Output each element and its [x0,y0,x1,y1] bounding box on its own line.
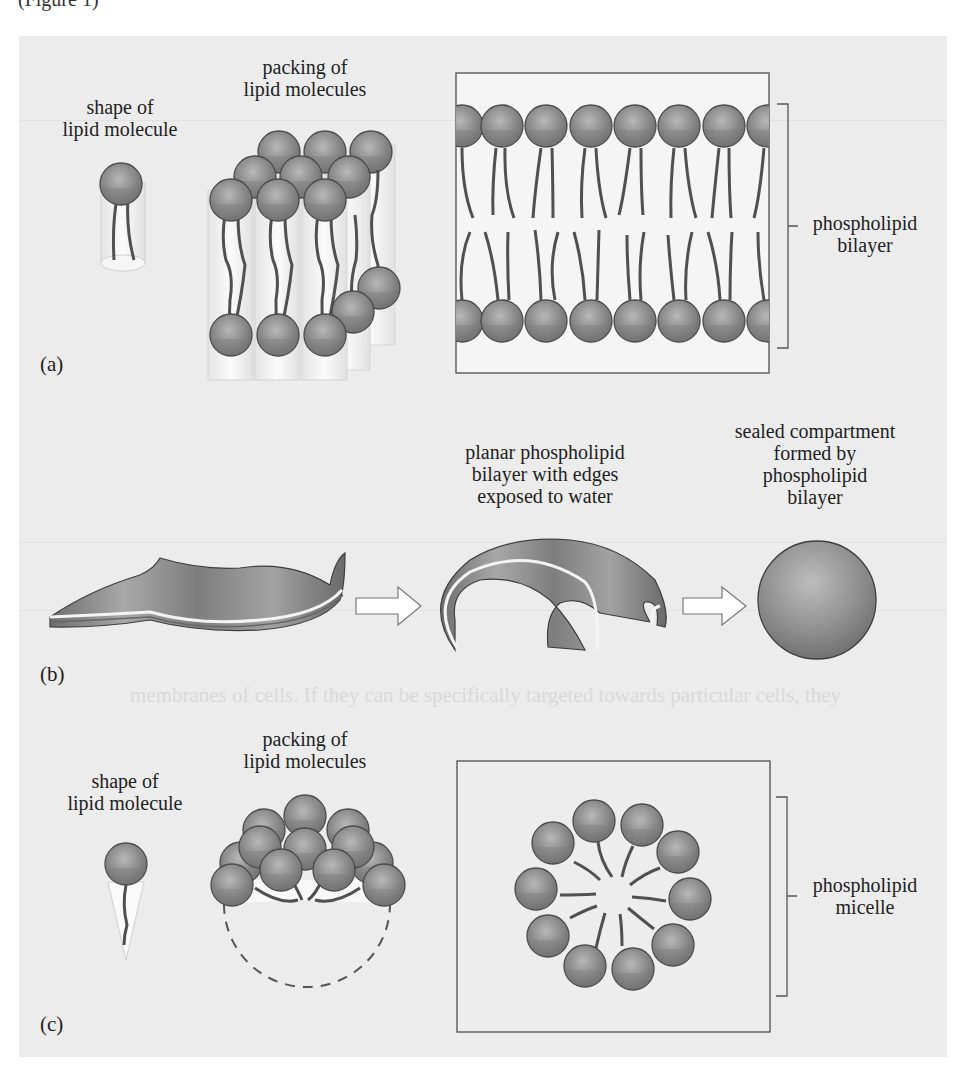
curved-bilayer-sheet [441,539,667,650]
lipid-cone-packing [211,795,405,987]
micelle-label: phospholipid micelle [805,874,925,918]
micelle-bracket [776,797,797,996]
micelle-box [457,761,770,1032]
bilayer-box [441,73,789,373]
sealed-compartment-label: sealed compartment formed by phospholipi… [715,420,915,508]
part-b-label: (b) [40,662,65,687]
lipid-cone-shape [105,843,147,960]
lipid-cylinder-shape [100,163,145,271]
bilayer-label: phospholipid bilayer [800,212,930,256]
c-shape-label: shape of lipid molecule [60,770,190,814]
planar-bilayer-label: planar phospholipid bilayer with edges e… [450,441,640,507]
bilayer-bracket [777,104,798,348]
part-a-label: (a) [40,352,63,377]
planar-sheet [50,553,345,631]
a-shape-label: shape of lipid molecule [60,96,180,140]
sealed-vesicle-sphere [758,541,876,659]
arrow-right-icon [356,587,421,625]
c-packing-label: packing of lipid molecules [230,728,380,772]
a-packing-label: packing of lipid molecules [230,56,380,100]
part-c-label: (c) [40,1012,63,1037]
lipid-cylinder-packing [208,131,400,380]
arrow-right-icon [683,587,746,625]
